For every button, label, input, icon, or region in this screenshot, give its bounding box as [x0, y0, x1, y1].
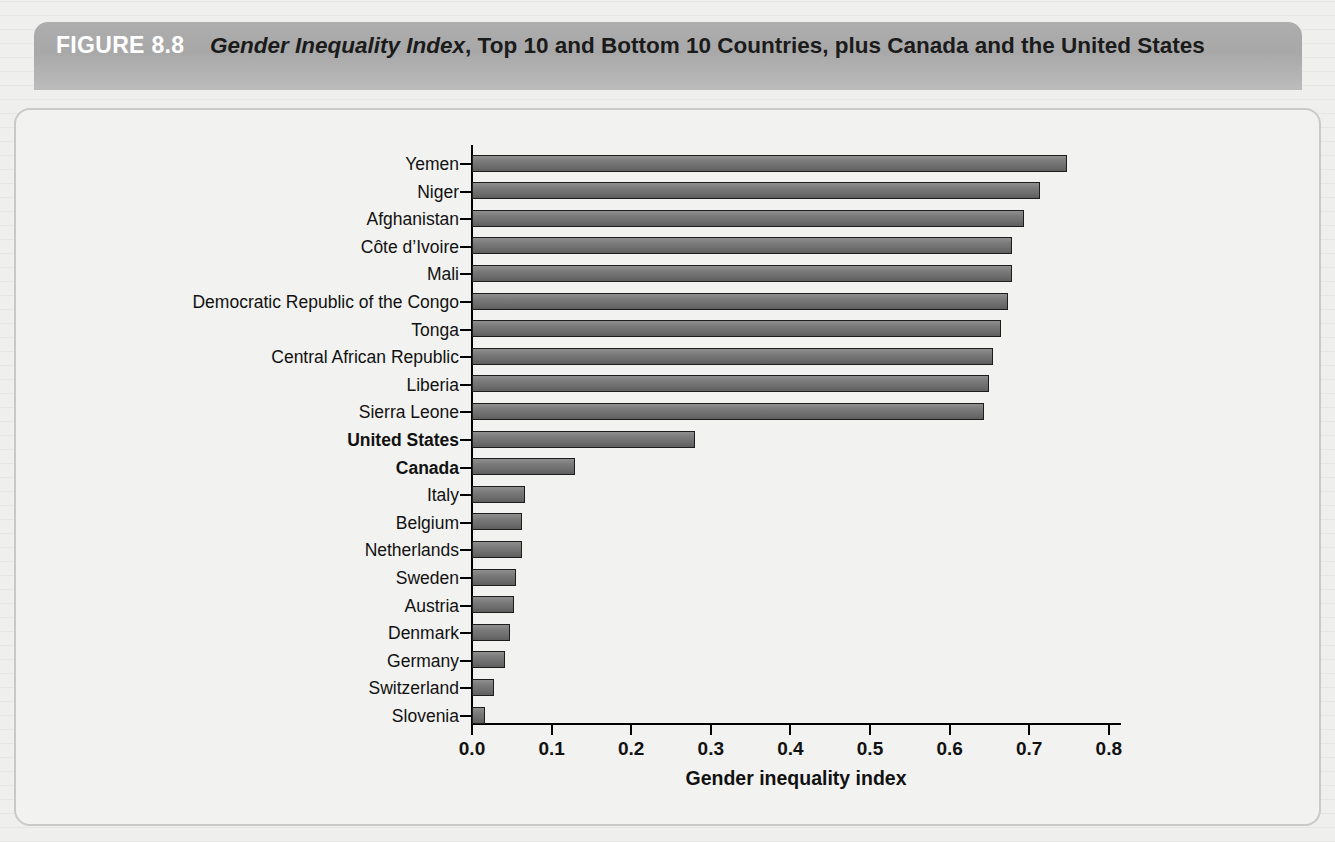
x-axis-tick-label: 0.7 — [999, 738, 1059, 760]
category-label: Netherlands — [39, 541, 459, 559]
bar — [472, 320, 1001, 337]
x-axis-tick — [471, 725, 473, 735]
x-axis-tick-label: 0.0 — [442, 738, 502, 760]
y-axis-tick — [460, 246, 471, 248]
figure-title: Gender Inequality Index, Top 10 and Bott… — [210, 31, 1282, 61]
category-label: Tonga — [39, 321, 459, 339]
y-axis-tick — [460, 163, 471, 165]
y-axis-tick — [460, 384, 471, 386]
y-axis-tick — [460, 687, 471, 689]
figure-title-rest: , Top 10 and Bottom 10 Countries, plus C… — [465, 33, 1205, 58]
x-axis-tick-label: 0.4 — [760, 738, 820, 760]
bar — [472, 403, 984, 420]
y-axis-tick — [460, 273, 471, 275]
x-axis-tick-label: 0.6 — [920, 738, 980, 760]
bar — [472, 679, 494, 696]
x-axis-tick-label: 0.2 — [601, 738, 661, 760]
x-axis-tick-label: 0.3 — [681, 738, 741, 760]
bar — [472, 513, 522, 530]
x-axis-tick — [551, 725, 553, 735]
bar — [472, 293, 1008, 310]
bar — [472, 486, 525, 503]
category-label: Côte d’Ivoire — [39, 238, 459, 256]
category-label: Niger — [39, 183, 459, 201]
bar — [472, 707, 485, 724]
bar — [472, 210, 1024, 227]
y-axis-tick — [460, 632, 471, 634]
y-axis-tick — [460, 356, 471, 358]
x-axis-line — [471, 723, 1121, 725]
category-label: Afghanistan — [39, 210, 459, 228]
x-axis-tick — [789, 725, 791, 735]
category-label: Germany — [39, 652, 459, 670]
bar — [472, 155, 1067, 172]
bar — [472, 624, 510, 641]
y-axis-tick — [460, 605, 471, 607]
bar — [472, 569, 516, 586]
category-label: Switzerland — [39, 679, 459, 697]
y-axis-tick — [460, 467, 471, 469]
y-axis-tick — [460, 329, 471, 331]
x-axis-tick-label: 0.5 — [840, 738, 900, 760]
bar — [472, 348, 993, 365]
category-label: Sweden — [39, 569, 459, 587]
y-axis-tick — [460, 715, 471, 717]
figure-number: FIGURE 8.8 — [56, 32, 184, 59]
x-axis-tick — [1028, 725, 1030, 735]
y-axis-tick — [460, 577, 471, 579]
category-label: Democratic Republic of the Congo — [39, 293, 459, 311]
category-label: United States — [39, 431, 459, 449]
x-axis-tick — [949, 725, 951, 735]
category-label: Sierra Leone — [39, 403, 459, 421]
y-axis-tick — [460, 494, 471, 496]
category-label: Italy — [39, 486, 459, 504]
x-axis-tick-label: 0.8 — [1079, 738, 1139, 760]
category-label: Slovenia — [39, 707, 459, 725]
bar — [472, 375, 989, 392]
bar — [472, 265, 1012, 282]
category-label: Mali — [39, 265, 459, 283]
category-label: Liberia — [39, 376, 459, 394]
bar — [472, 541, 522, 558]
bar — [472, 596, 514, 613]
chart-frame: Gender inequality index 0.00.10.20.30.40… — [14, 108, 1321, 826]
bar — [472, 431, 695, 448]
category-label: Belgium — [39, 514, 459, 532]
x-axis-tick — [630, 725, 632, 735]
y-axis-tick — [460, 522, 471, 524]
x-axis-tick — [869, 725, 871, 735]
bar — [472, 458, 575, 475]
y-axis-tick — [460, 218, 471, 220]
figure-header-band: FIGURE 8.8 Gender Inequality Index, Top … — [34, 22, 1302, 90]
category-label: Denmark — [39, 624, 459, 642]
category-label: Central African Republic — [39, 348, 459, 366]
category-label: Austria — [39, 597, 459, 615]
y-axis-tick — [460, 191, 471, 193]
category-label: Canada — [39, 459, 459, 477]
y-axis-tick — [460, 660, 471, 662]
x-axis-title: Gender inequality index — [471, 767, 1121, 790]
x-axis-tick — [1108, 725, 1110, 735]
x-axis-tick-label: 0.1 — [522, 738, 582, 760]
bar-chart: Gender inequality index 0.00.10.20.30.40… — [16, 110, 1319, 824]
bar — [472, 651, 505, 668]
y-axis-tick — [460, 439, 471, 441]
y-axis-tick — [460, 301, 471, 303]
y-axis-tick — [460, 411, 471, 413]
bar — [472, 237, 1012, 254]
y-axis-tick — [460, 549, 471, 551]
figure-title-italic-part: Gender Inequality Index — [210, 33, 465, 58]
bar — [472, 182, 1040, 199]
x-axis-tick — [710, 725, 712, 735]
category-label: Yemen — [39, 155, 459, 173]
